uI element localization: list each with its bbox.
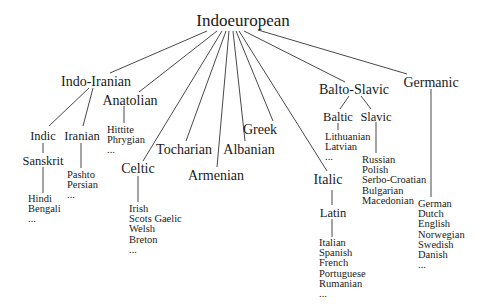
- node-greek: Greek: [243, 123, 277, 137]
- node-tocharian: Tocharian: [156, 143, 212, 157]
- leaves-anatolian: Hittite Phrygian ...: [107, 125, 145, 156]
- node-sanskrit: Sanskrit: [23, 155, 64, 168]
- node-indic: Indic: [30, 130, 56, 143]
- node-armenian: Armenian: [188, 169, 244, 183]
- leaves-sanskrit: Hindi Bengali ...: [28, 194, 61, 225]
- leaves-latin: Italian Spanish French Portuguese Rumani…: [319, 238, 366, 299]
- leaf: ...: [107, 145, 145, 155]
- node-indoeuropean: Indoeuropean: [196, 12, 289, 29]
- leaves-iranian: Pashto Persian ...: [67, 170, 98, 201]
- leaves-slavic: Russian Polish Serbo-Croatian Bulgarian …: [362, 155, 426, 206]
- node-indo-iranian: Indo-Iranian: [61, 75, 131, 89]
- leaf: ...: [418, 260, 465, 270]
- language-family-tree: Indoeuropean Indo-Iranian Anatolian Celt…: [0, 0, 487, 306]
- node-italic: Italic: [314, 173, 343, 187]
- leaf: ...: [67, 190, 98, 200]
- node-germanic: Germanic: [403, 76, 458, 90]
- node-baltic: Baltic: [323, 111, 353, 124]
- node-balto-slavic: Balto-Slavic: [319, 83, 389, 97]
- node-slavic: Slavic: [360, 111, 391, 124]
- leaf: ...: [319, 289, 366, 299]
- node-iranian: Iranian: [64, 130, 99, 143]
- leaf: ...: [129, 245, 182, 255]
- node-celtic: Celtic: [121, 162, 154, 176]
- leaf: ...: [28, 214, 61, 224]
- leaf: Macedonian: [362, 196, 426, 206]
- leaves-germanic: German Dutch English Norwegian Swedish D…: [418, 199, 465, 270]
- node-latin: Latin: [320, 207, 346, 220]
- leaves-celtic: Irish Scots Gaelic Welsh Breton ...: [129, 204, 182, 255]
- node-anatolian: Anatolian: [102, 94, 157, 108]
- node-albanian: Albanian: [223, 143, 274, 157]
- leaf: Breton: [129, 235, 182, 245]
